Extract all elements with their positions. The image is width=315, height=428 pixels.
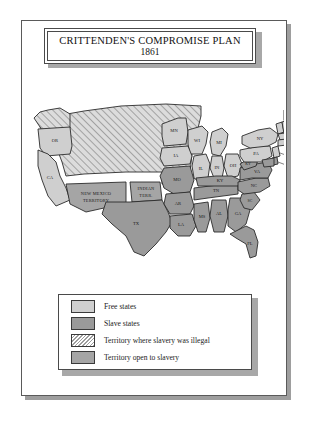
state-label-ky-west: KY	[245, 162, 251, 166]
state-label-ia: IA	[174, 153, 180, 158]
legend-item-slave-states: Slave states	[71, 317, 251, 331]
state-label-mo: MO	[173, 177, 181, 182]
state-label-va: VA	[254, 169, 261, 174]
legend-label-free: Free states	[104, 302, 136, 311]
state-label-mi: MI	[216, 140, 222, 145]
state-label-tn: TN	[213, 188, 220, 193]
legend-label-illegal: Territory where slavery was illegal	[104, 336, 210, 345]
legend-item-open-to-slavery: Territory open to slavery	[71, 351, 251, 365]
state-label-ca: CA	[47, 175, 54, 180]
map-legend: Free states Slave states Territory where…	[58, 294, 252, 370]
state-label-la: LA	[178, 222, 185, 227]
legend-label-open: Territory open to slavery	[104, 353, 179, 362]
page-title-year: 1861	[141, 47, 160, 57]
map-page: CRITTENDEN'S COMPROMISE PLAN 1861 OR CA	[0, 0, 315, 428]
state-label-in: IN	[215, 165, 221, 170]
state-label-tx: TX	[133, 221, 140, 226]
leader-line-de	[278, 162, 284, 168]
territory-label-new-mexico-1: NEW MEXICO	[81, 191, 111, 196]
territory-indian	[130, 182, 162, 202]
legend-swatch-illegal	[71, 334, 95, 347]
state-ct	[278, 139, 284, 146]
territory-label-indian-2: TERR.	[139, 193, 152, 198]
legend-swatch-free	[71, 300, 95, 313]
us-map: OR CA NEW MEXICO TERRITORY INDIAN TERR. …	[26, 84, 284, 274]
washington-territory	[34, 108, 70, 130]
state-label-ga: GA	[235, 211, 242, 216]
legend-item-free-states: Free states	[71, 300, 251, 314]
state-label-al: AL	[216, 211, 222, 216]
leader-line-nj	[280, 153, 284, 158]
legend-swatch-slave	[71, 317, 95, 330]
page-title: CRITTENDEN'S COMPROMISE PLAN	[59, 35, 240, 46]
legend-swatch-open	[71, 351, 95, 364]
state-label-oh: OH	[230, 163, 237, 168]
state-label-ms: MS	[199, 214, 206, 219]
state-label-pa: PA	[253, 151, 259, 156]
state-md	[262, 158, 274, 167]
legend-item-slavery-illegal: Territory where slavery was illegal	[71, 334, 251, 348]
state-label-ky: KY	[217, 178, 224, 183]
state-label-mn: MN	[170, 128, 178, 133]
state-label-ar: AR	[175, 201, 182, 206]
state-label-wi: WI	[194, 138, 200, 143]
state-label-sc: SC	[248, 199, 253, 203]
state-label-or: OR	[52, 138, 59, 143]
state-label-ny: NY	[257, 136, 264, 141]
legend-label-slave: Slave states	[104, 319, 140, 328]
title-plate: CRITTENDEN'S COMPROMISE PLAN 1861	[44, 28, 256, 64]
state-tx	[102, 200, 172, 256]
state-label-il: IL	[199, 166, 204, 171]
state-label-nc: NC	[251, 183, 257, 188]
territory-label-indian-1: INDIAN	[138, 186, 155, 191]
state-nj	[272, 146, 280, 158]
state-label-fl: FL	[247, 241, 253, 246]
title-plate-inner: CRITTENDEN'S COMPROMISE PLAN 1861	[47, 31, 253, 61]
